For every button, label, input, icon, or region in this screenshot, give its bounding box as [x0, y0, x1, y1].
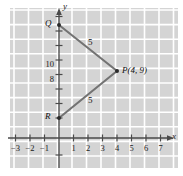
y-axis-label: y — [63, 2, 67, 11]
x-tick-label-4: 4 — [113, 144, 121, 153]
x-tick-label-5: 5 — [128, 144, 136, 153]
coordinate-plane-figure: y x −3 −2 −1 1 2 3 4 5 6 7 10 8 Q R P(4,… — [0, 0, 183, 176]
y-axis — [56, 8, 62, 168]
y-tick-label-8: 8 — [40, 75, 54, 84]
segment-qp — [59, 25, 117, 71]
y-tick-label-10: 10 — [40, 60, 54, 69]
x-tick-label-neg2: −2 — [24, 144, 36, 153]
point-label-r: R — [45, 112, 51, 121]
x-tick-label-3: 3 — [99, 144, 107, 153]
vertex-dot-q — [57, 23, 61, 27]
point-label-p: P(4, 9) — [122, 66, 147, 75]
x-tick-label-neg1: −1 — [39, 144, 51, 153]
x-tick-label-neg3: −3 — [10, 144, 22, 153]
x-axis — [8, 135, 174, 141]
x-axis-label: x — [172, 132, 176, 141]
vertex-dot-r — [57, 116, 61, 120]
x-tick-label-2: 2 — [84, 144, 92, 153]
x-tick-label-7: 7 — [157, 144, 165, 153]
segment-length-label-rp: 5 — [88, 96, 93, 105]
segment-length-label-qp: 5 — [88, 38, 93, 47]
x-tick-label-1: 1 — [70, 144, 78, 153]
x-tick-label-6: 6 — [142, 144, 150, 153]
point-label-q: Q — [45, 19, 52, 28]
vertex-dot-p — [115, 69, 119, 73]
